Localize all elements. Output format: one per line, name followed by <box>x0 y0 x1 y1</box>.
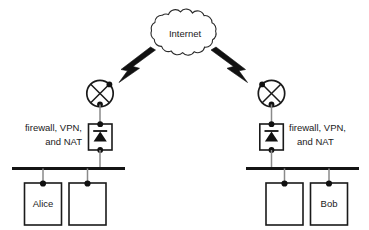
link-right-router-to-internet[interactable] <box>211 47 248 83</box>
host-right-1[interactable] <box>266 180 303 225</box>
host-nic-dot <box>40 180 46 186</box>
left-gateway-annotation: firewall, VPN, and NAT <box>25 122 82 147</box>
left-gateway[interactable] <box>89 121 113 153</box>
left-annotation-line-2: and NAT <box>45 136 82 147</box>
gateway-wan-port-dot <box>97 121 103 127</box>
lightning-bolt-icon <box>211 47 248 83</box>
router-uplink-port-dot <box>259 82 265 88</box>
right-router[interactable] <box>258 80 284 107</box>
left-router[interactable] <box>87 80 113 107</box>
host-label: Alice <box>33 198 54 209</box>
host-box-icon <box>266 183 303 225</box>
router-uplink-port-dot <box>107 82 113 88</box>
right-gateway-annotation: firewall, VPN, and NAT <box>289 122 346 147</box>
host-nic-dot <box>326 180 332 186</box>
host-nic-dot <box>84 180 90 186</box>
host-nic-dot <box>281 180 287 186</box>
network-diagram: Internet firewall, VPN, and NAT <box>0 0 369 230</box>
left-annotation-line-1: firewall, VPN, <box>25 122 82 133</box>
right-gateway[interactable] <box>260 121 284 153</box>
right-annotation-line-2: and NAT <box>297 136 334 147</box>
lightning-bolt-icon <box>119 47 156 83</box>
host-bob[interactable]: Bob <box>311 180 348 225</box>
network-diagram-canvas: Internet firewall, VPN, and NAT <box>0 0 369 230</box>
cloud-label: Internet <box>169 28 202 39</box>
gateway-wan-port-dot <box>269 121 275 127</box>
link-left-router-to-internet[interactable] <box>119 47 156 83</box>
host-label: Bob <box>321 198 338 209</box>
right-annotation-line-1: firewall, VPN, <box>289 122 346 133</box>
host-left-2[interactable] <box>69 180 106 225</box>
host-alice[interactable]: Alice <box>25 180 62 225</box>
internet-cloud[interactable]: Internet <box>151 9 216 55</box>
host-box-icon <box>69 183 106 225</box>
